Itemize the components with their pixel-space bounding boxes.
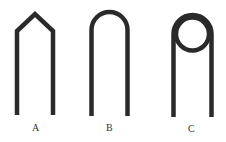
diagram-canvas — [0, 0, 226, 142]
shape-c-loop-bend — [174, 15, 212, 117]
shape-a-pointed-bend — [17, 14, 53, 115]
shape-b-round-bend — [92, 12, 128, 116]
label-a: A — [32, 122, 39, 133]
shape-c-loop-circle — [176, 18, 209, 51]
label-c: C — [188, 123, 195, 134]
label-b: B — [106, 122, 113, 133]
